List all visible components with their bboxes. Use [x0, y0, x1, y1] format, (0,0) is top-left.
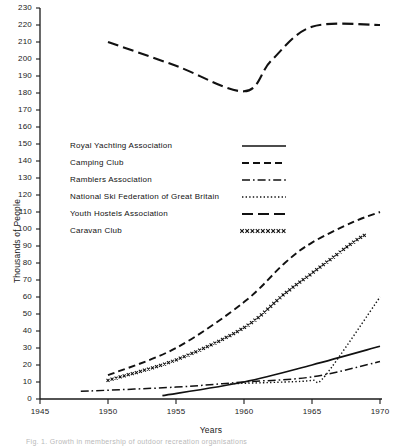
y-tick-label: 190: [6, 71, 32, 80]
legend-item-label: National Ski Federation of Great Britain: [70, 192, 219, 201]
series-3-line: [230, 297, 380, 384]
legend-item: Youth Hostels Association: [70, 208, 330, 225]
y-tick-label: 60: [6, 292, 32, 301]
series-0-line: [162, 346, 380, 395]
y-tick-label: 30: [6, 343, 32, 352]
figure-caption: Fig. 1. Growth in membership of outdoor …: [26, 438, 266, 447]
legend-item: Royal Yachting Association: [70, 140, 330, 157]
legend-item-label: Royal Yachting Association: [70, 141, 172, 150]
legend-item-key: [240, 225, 314, 237]
y-tick-label: 170: [6, 105, 32, 114]
legend-item: National Ski Federation of Great Britain: [70, 191, 330, 208]
y-tick-label: 70: [6, 275, 32, 284]
y-tick-label: 210: [6, 37, 32, 46]
y-tick-label: 100: [6, 224, 32, 233]
y-tick-label: 90: [6, 241, 32, 250]
legend-item-label: Camping Club: [70, 158, 124, 167]
x-tick-label: 1955: [156, 407, 196, 416]
y-tick-label: 130: [6, 173, 32, 182]
chart-figure: Thousands of People Years Royal Yachting…: [0, 0, 403, 447]
legend-item-key: [240, 157, 314, 169]
legend-item-label: Caravan Club: [70, 226, 122, 235]
y-tick-label: 110: [6, 207, 32, 216]
y-tick-label: 10: [6, 377, 32, 386]
legend-item-label: Ramblers Association: [70, 175, 152, 184]
series-4-line: [108, 24, 380, 92]
x-tick-label: 1970: [360, 407, 400, 416]
y-tick-label: 20: [6, 360, 32, 369]
legend-item-key: [240, 191, 314, 203]
y-tick-label: 160: [6, 122, 32, 131]
x-tick-label: 1960: [224, 407, 264, 416]
series-2-line: [81, 362, 380, 392]
legend-item: Caravan Club: [70, 225, 330, 242]
x-axis-title: Years: [181, 425, 241, 435]
y-tick-label: 120: [6, 190, 32, 199]
y-tick-label: 0: [6, 394, 32, 403]
legend-item-label: Youth Hostels Association: [70, 209, 168, 218]
x-tick-label: 1965: [292, 407, 332, 416]
y-tick-label: 40: [6, 326, 32, 335]
x-tick-label: 1950: [88, 407, 128, 416]
y-tick-label: 220: [6, 20, 32, 29]
y-tick-label: 140: [6, 156, 32, 165]
y-tick-label: 150: [6, 139, 32, 148]
legend-item-key: [240, 140, 314, 152]
legend-item-key: [240, 174, 314, 186]
y-tick-label: 230: [6, 3, 32, 12]
legend-item-key: [240, 208, 314, 220]
chart-legend: Royal Yachting AssociationCamping ClubRa…: [70, 140, 330, 242]
y-tick-label: 180: [6, 88, 32, 97]
legend-item: Ramblers Association: [70, 174, 330, 191]
x-tick-label: 1945: [20, 407, 60, 416]
y-tick-label: 200: [6, 54, 32, 63]
y-tick-label: 80: [6, 258, 32, 267]
y-tick-label: 50: [6, 309, 32, 318]
legend-item: Camping Club: [70, 157, 330, 174]
